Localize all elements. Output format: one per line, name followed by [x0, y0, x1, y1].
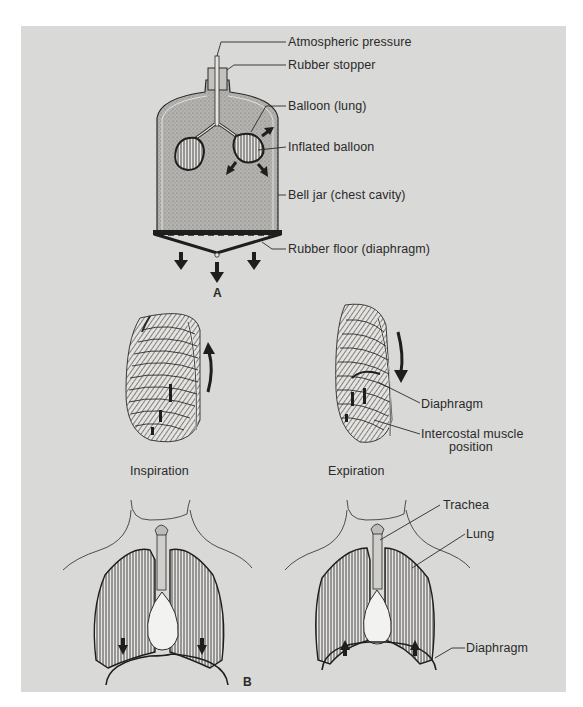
- bell-jar-model: [153, 42, 286, 283]
- thorax-expiration: [285, 500, 470, 670]
- label-intercostal-line1: Intercostal muscle: [421, 427, 524, 441]
- expiration-arrow: [394, 332, 408, 383]
- label-rubber-floor: Rubber floor (diaphragm): [288, 242, 430, 256]
- label-ribcage-diaphragm: Diaphragm: [421, 397, 483, 411]
- label-rubber-stopper: Rubber stopper: [288, 58, 376, 72]
- label-inflated-balloon: Inflated balloon: [288, 140, 374, 154]
- label-expiration: Expiration: [328, 464, 385, 478]
- caption-b: B: [243, 675, 252, 689]
- inspiration-arrow: [203, 342, 215, 392]
- label-lung: Lung: [466, 527, 494, 541]
- ribcage-inspiration: [126, 314, 200, 442]
- ribcage-expiration: [336, 304, 392, 442]
- label-trachea: Trachea: [443, 498, 489, 512]
- label-atmospheric-pressure: Atmospheric pressure: [288, 35, 412, 49]
- label-inspiration: Inspiration: [130, 464, 189, 478]
- label-intercostal-line2: position: [449, 440, 493, 454]
- label-balloon-lung: Balloon (lung): [288, 99, 367, 113]
- thorax-inspiration: [63, 500, 252, 685]
- label-bell-jar: Bell jar (chest cavity): [288, 188, 406, 202]
- caption-a: A: [213, 286, 222, 300]
- label-thorax-diaphragm: Diaphragm: [466, 641, 528, 655]
